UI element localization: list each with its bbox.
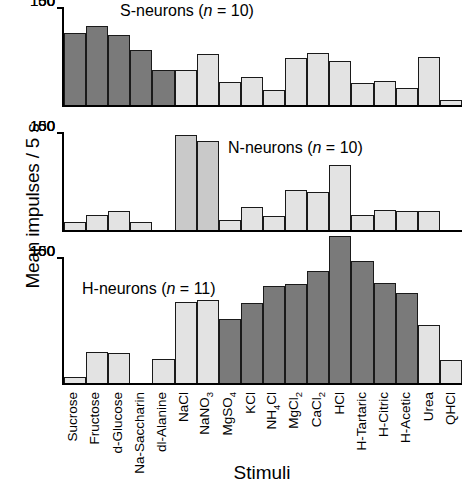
bar-H-Citric	[374, 81, 396, 105]
x-tick-label-cell: HCl	[329, 392, 351, 460]
x-tick-label-NaNO3: NaNO3	[198, 392, 214, 435]
bars-h-neurons	[64, 259, 462, 383]
bar-NaCl	[175, 302, 197, 383]
bar-d-Glucose	[108, 35, 130, 105]
bar-cell	[351, 259, 373, 383]
bar-cell	[86, 9, 108, 105]
bar-cell	[152, 9, 174, 105]
bar-cell	[64, 9, 86, 105]
bar-d-Glucose	[108, 211, 130, 230]
bar-KCl	[241, 207, 263, 230]
x-axis-title: Stimuli	[62, 462, 462, 484]
bar-dl-Alanine	[152, 359, 174, 383]
bar-HCl	[329, 236, 351, 383]
bar-MgCl2	[285, 190, 307, 230]
bar-MgSO4	[219, 319, 241, 383]
bar-QHCl	[440, 360, 462, 383]
x-tick-label-dl-Alanine: dl-Alanine	[155, 392, 169, 452]
bar-Sucrose	[64, 222, 86, 230]
x-tick-label-HCl: HCl	[333, 392, 347, 415]
bar-cell	[307, 9, 329, 105]
panel-label-n-neurons: N-neurons (n = 10)	[228, 139, 363, 157]
bar-cell	[241, 9, 263, 105]
x-tick-label-Fructose: Fructose	[89, 392, 103, 445]
bar-H-Citric	[374, 283, 396, 383]
bars-s-neurons	[64, 9, 462, 105]
x-tick-label-cell: Urea	[418, 392, 440, 460]
x-tick-label-cell: MgSO4	[218, 392, 240, 460]
bar-cell	[396, 9, 418, 105]
figure-root: Mean impulses / 5 s 050100150 S-neurons …	[0, 0, 465, 488]
bar-HCl	[329, 165, 351, 230]
bar-cell	[285, 9, 307, 105]
bar-KCl	[241, 303, 263, 383]
bar-cell	[329, 259, 351, 383]
panel-label-h-neurons: H-neurons (n = 11)	[82, 280, 216, 298]
x-tick-label-NH4Cl: NH4Cl	[265, 392, 281, 430]
bar-cell	[374, 9, 396, 105]
x-tick-label-cell: H-Citric	[373, 392, 395, 460]
bar-cell	[440, 259, 462, 383]
bar-cell	[374, 134, 396, 230]
x-tick-label-cell: QHCl	[440, 392, 462, 460]
x-tick-label-Sucrose: Sucrose	[66, 392, 80, 442]
panel-s-neurons: 050100150 S-neurons (n = 10)	[0, 0, 465, 112]
bar-cell	[219, 9, 241, 105]
bar-cell	[219, 259, 241, 383]
bar-cell	[263, 9, 285, 105]
bar-H-Citric	[374, 210, 396, 230]
y-tick-label: 150	[30, 0, 55, 9]
bar-cell	[108, 134, 130, 230]
bar-H-Acetic	[396, 88, 418, 105]
bar-KCl	[241, 77, 263, 105]
x-tick-label-QHCl: QHCl	[444, 392, 458, 425]
x-tick-label-KCl: KCl	[244, 392, 258, 414]
bar-cell	[152, 259, 174, 383]
bar-NH4Cl	[263, 286, 285, 383]
bar-Fructose	[86, 352, 108, 383]
bar-cell	[307, 259, 329, 383]
bar-cell	[64, 134, 86, 230]
x-tick-label-cell: NaNO3	[195, 392, 217, 460]
x-tick-label-MgSO4: MgSO4	[221, 392, 237, 436]
bar-cell	[440, 9, 462, 105]
plot-area-s-neurons: 050100150	[62, 9, 462, 107]
bar-cell	[329, 9, 351, 105]
bar-NaCl	[175, 70, 197, 105]
x-tick-label-cell: KCl	[240, 392, 262, 460]
y-tick-label: 150	[30, 242, 55, 259]
bar-cell	[197, 9, 219, 105]
bar-H-Tartaric	[351, 83, 373, 105]
bar-H-Acetic	[396, 211, 418, 230]
bar-HCl	[329, 61, 351, 105]
x-tick-label-cell: NaCl	[173, 392, 195, 460]
bar-cell	[86, 259, 108, 383]
y-tick-mark	[57, 7, 64, 9]
bar-NaNO3	[197, 141, 219, 230]
x-tick-label-cell: d-Glucose	[106, 392, 128, 460]
bar-cell	[130, 259, 152, 383]
bar-cell	[86, 134, 108, 230]
plot-area-h-neurons: 050100150	[62, 259, 462, 385]
x-tick-label-H-Acetic: H-Acetic	[400, 392, 414, 443]
bar-MgSO4	[219, 220, 241, 230]
bar-Urea	[418, 211, 440, 230]
bar-MgCl2	[285, 284, 307, 383]
bar-Fructose	[86, 26, 108, 105]
x-axis-tick-labels: SucroseFructosed-GlucoseNa-Saccharindl-A…	[62, 392, 462, 460]
bar-NH4Cl	[263, 216, 285, 230]
bar-NaNO3	[197, 300, 219, 383]
y-tick-mark	[57, 132, 64, 134]
x-tick-label-cell: Sucrose	[62, 392, 84, 460]
bar-MgSO4	[219, 82, 241, 105]
bar-cell	[108, 9, 130, 105]
x-tick-label-Urea: Urea	[422, 392, 436, 421]
panel-h-neurons: 050100150 H-neurons (n = 11)	[0, 250, 465, 390]
bar-Na-Saccharin	[130, 222, 152, 230]
bar-cell	[175, 134, 197, 230]
bar-cell	[440, 134, 462, 230]
bar-cell	[130, 9, 152, 105]
bar-CaCl2	[307, 271, 329, 383]
x-tick-label-H-Tartaric: H-Tartaric	[355, 392, 369, 451]
bar-cell	[285, 259, 307, 383]
